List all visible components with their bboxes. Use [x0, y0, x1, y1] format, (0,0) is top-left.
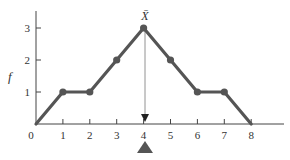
x-tick-label: 8	[248, 129, 254, 141]
y-tick-label: 3	[25, 22, 31, 34]
x-tick-label: 2	[87, 129, 93, 141]
y-axis-label: f	[8, 69, 14, 84]
data-point	[140, 24, 147, 31]
y-tick-label: 2	[25, 54, 31, 66]
data-point	[194, 88, 201, 95]
data-point	[86, 88, 93, 95]
mean-label: X̄	[140, 9, 149, 23]
mean-arrowhead-icon	[141, 114, 149, 122]
frequency-line	[36, 28, 251, 124]
frequency-polygon-chart: 123 012345678 f X̄	[0, 0, 290, 160]
x-tick-label: 4	[141, 129, 147, 141]
data-point-markers	[59, 24, 228, 95]
x-tick-label: 7	[222, 129, 228, 141]
x-tick-label: 0	[28, 129, 34, 141]
y-ticks: 123	[25, 22, 42, 98]
y-tick-label: 1	[25, 86, 31, 98]
data-point	[221, 88, 228, 95]
x-tick-label: 1	[60, 129, 66, 141]
x-ticks: 012345678	[28, 119, 254, 141]
axes	[36, 11, 284, 124]
x-tick-label: 3	[114, 129, 120, 141]
x-tick-label: 5	[168, 129, 174, 141]
data-point	[59, 88, 66, 95]
x-tick-label: 6	[195, 129, 201, 141]
data-point	[113, 56, 120, 63]
data-point	[167, 56, 174, 63]
fulcrum-triangle-icon	[137, 141, 153, 153]
